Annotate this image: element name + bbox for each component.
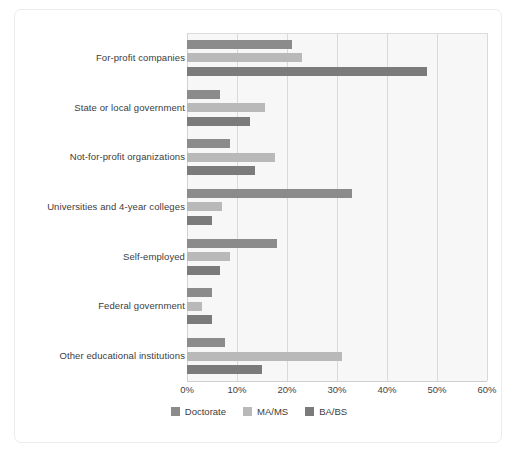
category-group: Other educational institutions <box>187 331 487 381</box>
bar <box>187 252 230 261</box>
bar <box>187 352 342 361</box>
category-label: Not-for-profit organizations <box>5 151 185 162</box>
category-group: Universities and 4-year colleges <box>187 182 487 232</box>
category-label: Universities and 4-year colleges <box>5 201 185 212</box>
bar <box>187 166 255 175</box>
bar <box>187 288 212 297</box>
x-tick-label: 20% <box>277 384 296 395</box>
category-label: State or local government <box>5 102 185 113</box>
category-group: For-profit companies <box>187 33 487 83</box>
category-group: Not-for-profit organizations <box>187 132 487 182</box>
x-tick-label: 60% <box>477 384 496 395</box>
gridline-60pct <box>487 33 488 381</box>
bar <box>187 189 352 198</box>
category-label: Self-employed <box>5 251 185 262</box>
chart-card: For-profit companiesState or local gover… <box>14 9 502 443</box>
x-tick-label: 0% <box>180 384 194 395</box>
bar <box>187 153 275 162</box>
bar <box>187 302 202 311</box>
legend-swatch-icon <box>171 407 180 416</box>
bar <box>187 53 302 62</box>
category-label: Federal government <box>5 300 185 311</box>
x-axis-tick-labels: 0%10%20%30%40%50%60% <box>187 384 497 400</box>
category-label: For-profit companies <box>5 52 185 63</box>
legend-swatch-icon <box>305 407 314 416</box>
bar <box>187 216 212 225</box>
category-group: Federal government <box>187 282 487 332</box>
bar <box>187 139 230 148</box>
bar <box>187 338 225 347</box>
bar <box>187 266 220 275</box>
legend-item[interactable]: MA/MS <box>243 406 288 417</box>
category-group: Self-employed <box>187 232 487 282</box>
bar <box>187 315 212 324</box>
legend-swatch-icon <box>243 407 252 416</box>
x-tick-label: 30% <box>327 384 346 395</box>
legend-item[interactable]: Doctorate <box>171 406 226 417</box>
legend-label: BA/BS <box>319 406 347 417</box>
bar <box>187 67 427 76</box>
bar <box>187 117 250 126</box>
x-tick-label: 50% <box>427 384 446 395</box>
plot-wrapper: For-profit companiesState or local gover… <box>187 33 487 389</box>
legend-label: MA/MS <box>257 406 288 417</box>
x-axis-line <box>187 381 487 382</box>
x-tick-label: 10% <box>227 384 246 395</box>
bar <box>187 40 292 49</box>
bar <box>187 202 222 211</box>
legend-label: Doctorate <box>185 406 226 417</box>
legend-item[interactable]: BA/BS <box>305 406 347 417</box>
x-tick-label: 40% <box>377 384 396 395</box>
category-label: Other educational institutions <box>5 350 185 361</box>
bar <box>187 90 220 99</box>
category-group: State or local government <box>187 83 487 133</box>
bar <box>187 239 277 248</box>
bar <box>187 103 265 112</box>
bar <box>187 365 262 374</box>
chart-legend: DoctorateMA/MSBA/BS <box>15 406 503 417</box>
